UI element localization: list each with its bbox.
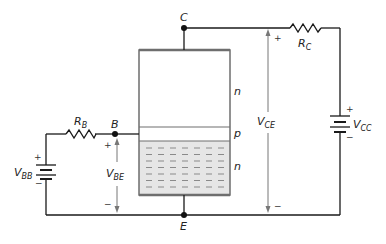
vbe-plus: +: [104, 141, 112, 150]
collector-region-label: n: [234, 86, 241, 97]
vcc-battery: [330, 116, 350, 132]
rb-resistor: [66, 130, 96, 138]
collector-label: C: [180, 12, 188, 23]
vbe-minus: −: [104, 200, 112, 209]
vcc-plus: +: [346, 105, 354, 114]
vcc-label: VCC: [353, 119, 372, 133]
vcc-minus: −: [346, 133, 354, 142]
vbb-plus: +: [34, 153, 42, 162]
collector-node: [181, 25, 187, 31]
circuit-svg: [0, 0, 386, 244]
vce-minus: −: [274, 202, 282, 211]
vbe-label: VBE: [106, 168, 124, 182]
transistor-circuit-diagram: C B E n p n RB RC VBB + − VCC + − VBE + …: [0, 0, 386, 244]
emitter-node: [181, 212, 187, 218]
base-label: B: [111, 119, 119, 130]
base-node: [112, 131, 118, 137]
rb-label: RB: [74, 116, 87, 130]
vbb-minus: −: [35, 179, 43, 188]
emitter-label: E: [180, 221, 187, 232]
rc-label: RC: [298, 38, 311, 52]
vbb-battery: [36, 165, 56, 179]
emitter-region-label: n: [234, 161, 241, 172]
base-region-label: p: [234, 128, 241, 139]
vce-plus: +: [274, 34, 282, 43]
vbb-label: VBB: [14, 167, 33, 181]
vce-label: VCE: [257, 116, 275, 130]
rc-resistor: [290, 24, 321, 32]
